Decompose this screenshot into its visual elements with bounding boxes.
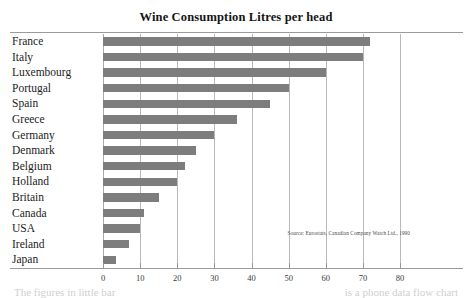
x-tick-30 [214, 263, 215, 268]
x-tick-40 [252, 263, 253, 268]
page-bleed-text: The figures in little bar is a phone dat… [14, 286, 458, 298]
bar-row: Holland [0, 174, 472, 190]
bar-ireland [103, 240, 129, 248]
x-tick-label-50: 50 [274, 273, 304, 283]
wine-consumption-bar-chart: Wine Consumption Litres per head FranceI… [0, 0, 472, 298]
x-tick-label-70: 70 [348, 273, 378, 283]
bar-row: Ireland [0, 237, 472, 253]
bar-rows: FranceItalyLuxembourgPortugalSpainGreece… [0, 0, 472, 234]
category-label-britain: Britain [12, 190, 98, 206]
category-label-germany: Germany [12, 128, 98, 144]
bar-usa [103, 224, 140, 232]
x-tick-label-80: 80 [385, 273, 415, 283]
category-label-luxembourg: Luxembourg [12, 65, 98, 81]
bar-holland [103, 178, 177, 186]
x-tick-0 [103, 263, 104, 268]
bar-denmark [103, 146, 196, 154]
category-label-belgium: Belgium [12, 159, 98, 175]
bar-row: Portugal [0, 81, 472, 97]
bar-france [103, 37, 370, 45]
bar-row: Luxembourg [0, 65, 472, 81]
bar-germany [103, 131, 214, 139]
bar-row: Belgium [0, 159, 472, 175]
bar-row: Canada [0, 206, 472, 222]
x-tick-70 [363, 263, 364, 268]
category-label-denmark: Denmark [12, 143, 98, 159]
category-label-canada: Canada [12, 206, 98, 222]
bar-japan [103, 256, 116, 264]
bar-canada [103, 209, 144, 217]
category-label-spain: Spain [12, 96, 98, 112]
category-label-ireland: Ireland [12, 237, 98, 253]
category-label-greece: Greece [12, 112, 98, 128]
x-tick-label-30: 30 [199, 273, 229, 283]
x-tick-label-0: 0 [88, 273, 118, 283]
bar-spain [103, 100, 270, 108]
bar-portugal [103, 84, 289, 92]
page-bleed-right: is a phone data flow chart [345, 286, 458, 298]
x-tick-80 [400, 263, 401, 268]
bar-row: Japan [0, 252, 472, 268]
page-bleed-left: The figures in little bar [14, 286, 115, 298]
x-tick-label-20: 20 [162, 273, 192, 283]
bar-row: Greece [0, 112, 472, 128]
bar-luxembourg [103, 68, 326, 76]
x-tick-label-10: 10 [125, 273, 155, 283]
x-tick-20 [177, 263, 178, 268]
bar-row: Spain [0, 96, 472, 112]
x-tick-label-60: 60 [311, 273, 341, 283]
bar-italy [103, 53, 363, 61]
bar-row: Britain [0, 190, 472, 206]
x-tick-10 [140, 263, 141, 268]
source-note: Source: Eurostats, Canadian Company Watc… [288, 230, 410, 236]
bar-britain [103, 193, 159, 201]
bar-row: France [0, 34, 472, 50]
category-label-holland: Holland [12, 174, 98, 190]
x-tick-label-40: 40 [237, 273, 267, 283]
bar-row: Denmark [0, 143, 472, 159]
category-label-japan: Japan [12, 252, 98, 268]
bar-row: Italy [0, 50, 472, 66]
x-tick-50 [289, 263, 290, 268]
x-tick-60 [326, 263, 327, 268]
bar-row: Germany [0, 128, 472, 144]
category-label-usa: USA [12, 221, 98, 237]
category-label-portugal: Portugal [12, 81, 98, 97]
bar-belgium [103, 162, 185, 170]
category-label-italy: Italy [12, 50, 98, 66]
bar-greece [103, 115, 237, 123]
category-label-france: France [12, 34, 98, 50]
